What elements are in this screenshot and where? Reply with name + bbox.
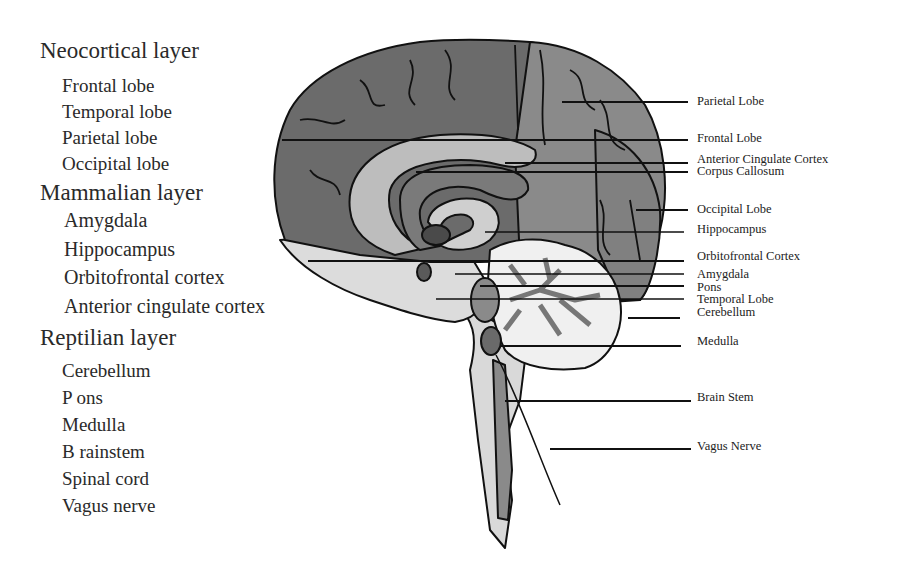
- label-temporal-lobe: Temporal Lobe: [697, 293, 774, 306]
- label-medulla: Medulla: [697, 335, 739, 348]
- label-corpus-callosum: Corpus Callosum: [697, 165, 784, 178]
- label-parietal-lobe: Parietal Lobe: [697, 95, 764, 108]
- label-vagus-nerve: Vagus Nerve: [697, 440, 761, 453]
- label-cerebellum: Cerebellum: [697, 306, 755, 319]
- orbitofrontal-node: [417, 263, 431, 281]
- label-hippocampus: Hippocampus: [697, 223, 766, 236]
- label-amygdala: Amygdala: [697, 268, 749, 281]
- brain-sagittal-diagram: [0, 0, 903, 570]
- label-brain-stem: Brain Stem: [697, 391, 754, 404]
- label-orbitofrontal-cortex: Orbitofrontal Cortex: [697, 250, 800, 263]
- medulla: [481, 327, 501, 355]
- pons: [471, 278, 499, 322]
- label-occipital-lobe: Occipital Lobe: [697, 203, 772, 216]
- amygdala: [422, 225, 450, 245]
- label-frontal-lobe: Frontal Lobe: [697, 132, 762, 145]
